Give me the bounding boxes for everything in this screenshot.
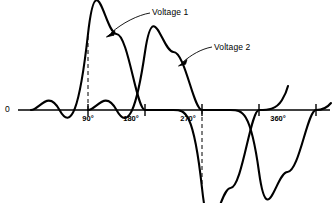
tick-label-90: 90° bbox=[82, 114, 93, 123]
tick-label-360: 360° bbox=[270, 114, 286, 123]
origin-label: 0 bbox=[5, 104, 10, 114]
leader-line-voltage-2 bbox=[183, 47, 212, 62]
arrowhead-voltage-1-stroke bbox=[107, 31, 116, 38]
sine-wave-diagram: 0 Voltage 1 Voltage 2 90° 180° 270° 360° bbox=[0, 0, 334, 203]
annotation-label-voltage-1: Voltage 1 bbox=[152, 7, 188, 17]
arrowhead-voltage-2-stroke bbox=[179, 60, 188, 67]
tick-label-270: 270° bbox=[180, 114, 196, 123]
tick-label-180: 180° bbox=[123, 114, 139, 123]
leader-voltage-1 bbox=[106, 13, 150, 37]
curve-voltage-2 bbox=[88, 26, 331, 199]
annotation-label-voltage-2: Voltage 2 bbox=[214, 42, 250, 52]
waveform-plot bbox=[0, 0, 334, 203]
leader-voltage-2 bbox=[179, 47, 213, 66]
leader-line-voltage-1 bbox=[111, 13, 150, 33]
